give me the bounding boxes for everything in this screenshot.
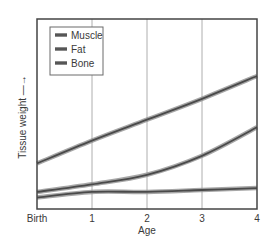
- x-axis-ticks: Birth 1 2 3 4: [27, 213, 261, 224]
- legend: Muscle Fat Bone: [50, 27, 103, 75]
- x-tick-label: Birth: [27, 213, 48, 224]
- x-tick-label: 4: [254, 213, 260, 224]
- x-tick-label: 2: [144, 213, 150, 224]
- legend-label-muscle: Muscle: [71, 30, 103, 41]
- legend-label-bone: Bone: [71, 58, 95, 69]
- y-axis-label: Tissue weight —→: [17, 75, 28, 159]
- tissue-growth-chart: Muscle Fat Bone Birth 1 2 3 4 Age Tissue…: [0, 0, 274, 246]
- x-axis-label: Age: [138, 225, 156, 236]
- legend-label-fat: Fat: [71, 44, 86, 55]
- chart-canvas: Muscle Fat Bone Birth 1 2 3 4 Age Tissue…: [0, 0, 274, 246]
- x-tick-label: 1: [89, 213, 95, 224]
- x-tick-label: 3: [199, 213, 205, 224]
